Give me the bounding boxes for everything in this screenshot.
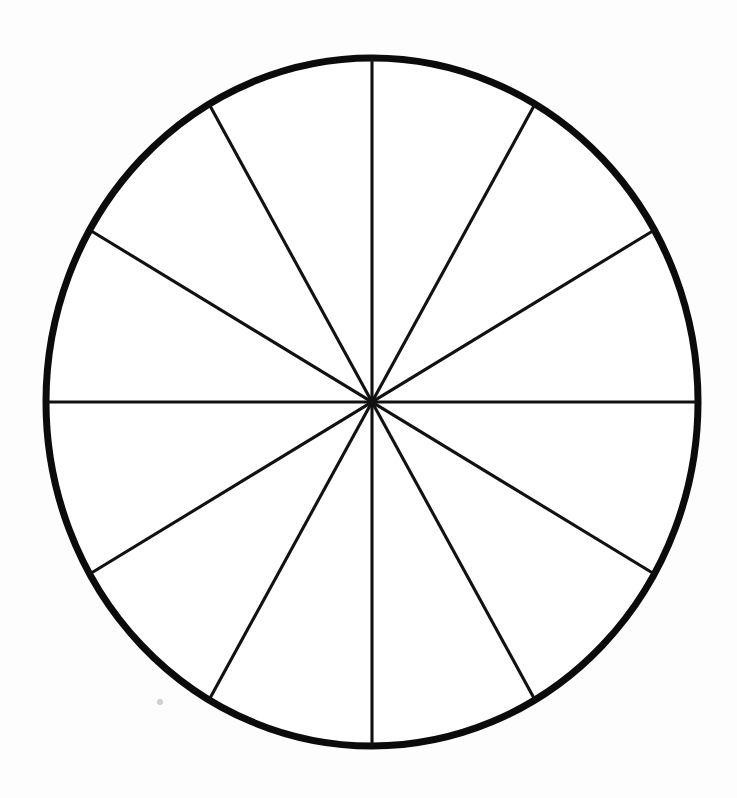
scan-speck: [157, 699, 163, 705]
worksheet-canvas: [0, 0, 737, 798]
fraction-circle-figure: [0, 0, 737, 798]
